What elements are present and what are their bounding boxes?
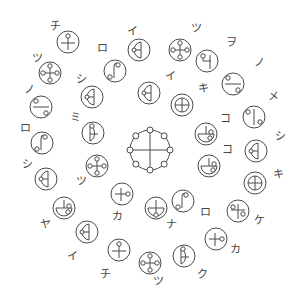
symbol-label: ロ <box>20 122 31 135</box>
symbol-bowl-bottom-dot <box>145 197 167 219</box>
symbol-bar-two-dots <box>222 73 244 95</box>
symbol-wo-shape <box>196 50 218 72</box>
symbol-label: ヤ <box>40 218 51 231</box>
symbol-four-dot-cross <box>39 62 61 84</box>
symbol-label: ツ <box>76 175 87 188</box>
symbol-label: メ <box>268 90 279 103</box>
symbol-label: ツ <box>32 52 43 65</box>
symbol-label: コ <box>222 143 233 156</box>
symbol-bowl-cross-dot <box>53 197 75 219</box>
symbol-label: イ <box>127 25 138 38</box>
symbol-d-top-dot <box>82 122 104 144</box>
symbol-hook <box>172 190 194 212</box>
symbol-label: イ <box>165 70 176 83</box>
symbol-label: シ <box>22 158 33 171</box>
symbol-label: ツ <box>153 275 164 288</box>
symbol-hook <box>31 132 53 154</box>
symbol-label: ツ <box>191 22 202 35</box>
symbol-half-d <box>35 168 57 190</box>
symbol-label: ミ <box>70 111 81 124</box>
symbol-hook <box>104 60 126 82</box>
symbol-label: キ <box>273 168 284 181</box>
symbol-four-dot-cross <box>139 252 161 274</box>
symbol-half-d <box>138 82 160 104</box>
symbol-d-top-dot <box>173 245 195 267</box>
symbol-label: チ <box>100 268 111 281</box>
symbol-label: ロ <box>97 42 108 55</box>
symbol-cross-two-dots <box>227 200 249 222</box>
symbol-label: ヲ <box>226 36 237 49</box>
symbol-label: カ <box>112 210 123 223</box>
symbol-label: コ <box>220 112 231 125</box>
symbol-four-dot-cross <box>86 155 108 177</box>
symbol-circle-plus <box>244 172 266 194</box>
symbol-vbar-two-dots <box>243 106 265 128</box>
symbol-label: キ <box>198 82 209 95</box>
symbol-cross-top-dot <box>108 239 130 261</box>
symbol-label: ノ <box>254 56 265 69</box>
center-ring <box>127 127 173 173</box>
symbol-label: カ <box>230 243 241 256</box>
symbol-label: ケ <box>254 214 265 227</box>
symbol-bowl-cross-dot <box>195 123 217 145</box>
symbol-cross-right-dot <box>205 228 227 250</box>
symbol-half-d <box>81 86 103 108</box>
symbol-cross-top-dot <box>57 31 79 53</box>
symbol-half-d <box>128 39 150 61</box>
symbol-four-dot-cross <box>169 39 191 61</box>
spiral-symbol-diagram: チツノロシヤイチツクカケキシメノヲツイロシミツカナロココキイ <box>0 0 300 304</box>
symbol-label: ク <box>197 268 208 281</box>
symbol-bowl-cross-dot <box>198 155 220 177</box>
symbol-label: ロ <box>200 206 211 219</box>
diagram-canvas: チツノロシヤイチツクカケキシメノヲツイロシミツカナロココキイ <box>0 0 300 304</box>
symbol-circle-plus <box>171 94 193 116</box>
symbol-label: シ <box>275 130 286 143</box>
symbol-half-d <box>76 221 98 243</box>
symbol-label: チ <box>50 20 61 33</box>
symbol-half-d <box>245 140 267 162</box>
symbol-bar-two-dots <box>30 96 52 118</box>
symbol-cross-right-dot <box>111 183 133 205</box>
symbol-label: ナ <box>166 218 177 231</box>
symbol-label: イ <box>67 250 78 263</box>
symbol-label: シ <box>76 73 87 86</box>
symbol-label: ノ <box>24 83 35 96</box>
